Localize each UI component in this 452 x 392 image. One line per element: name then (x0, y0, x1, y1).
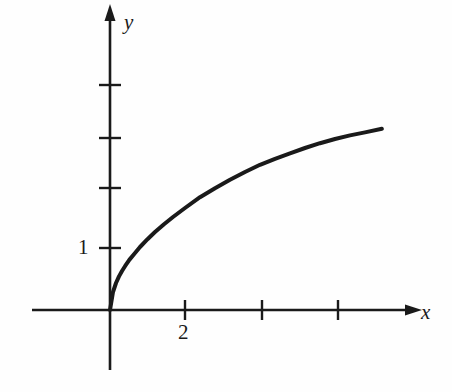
graph-figure: y x 1 2 (0, 0, 452, 392)
y-tick-label-1: 1 (78, 237, 89, 258)
plot-canvas (0, 0, 452, 392)
x-axis-label: x (421, 302, 430, 323)
axes-group (32, 4, 422, 370)
ticks-group (99, 85, 338, 320)
y-axis-label: y (124, 12, 133, 33)
x-tick-label-2: 2 (178, 322, 189, 343)
curve-group (110, 129, 382, 310)
x-axis-arrow-icon (405, 305, 422, 316)
data-curve (110, 129, 382, 310)
y-axis-arrow-icon (105, 4, 116, 21)
